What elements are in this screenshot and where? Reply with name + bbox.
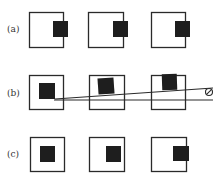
frame-box: [30, 76, 64, 110]
row-c: (c): [7, 138, 189, 172]
filled-square: [97, 77, 114, 94]
row-label: (c): [7, 149, 19, 159]
sloped-line: [55, 88, 213, 99]
frame-box: [152, 138, 190, 172]
frame-box: [31, 138, 65, 172]
frame-box: [89, 13, 129, 48]
filled-square: [106, 146, 121, 162]
frame-box: [90, 138, 125, 172]
filled-square: [162, 74, 178, 91]
filled-square: [40, 146, 55, 162]
frame-box: [152, 13, 191, 48]
frame-box: [90, 76, 125, 110]
figure-canvas: (a)(b)(c): [0, 0, 222, 185]
row-label: (a): [7, 24, 19, 34]
filled-square: [175, 21, 190, 37]
row-label: (b): [7, 88, 20, 98]
pivot-circle-slash-icon: [206, 89, 213, 96]
frame-box: [30, 13, 69, 48]
filled-square: [39, 83, 55, 99]
row-a: (a): [7, 13, 190, 48]
filled-square: [53, 21, 68, 37]
filled-square: [113, 21, 128, 37]
filled-square: [173, 146, 189, 161]
